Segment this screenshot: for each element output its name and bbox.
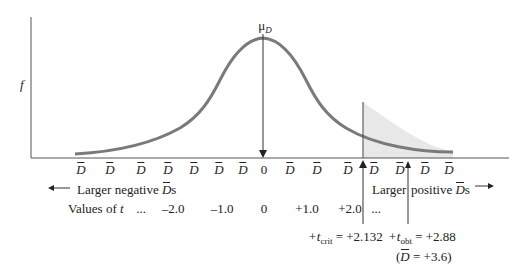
mu-symbol: μ [258,18,265,33]
t-obt-label: +tobt = +2.88 [388,230,456,246]
dbar-tick: D [189,163,198,176]
dbar-tick: D [136,163,145,176]
dbar-tick: D [343,163,352,176]
right-arrow-icon [488,183,494,189]
mean-arrow-icon [259,150,267,158]
t-crit-arrow-icon [359,160,367,168]
dbar-tick: D [214,163,223,176]
t-value-p1: +1.0 [295,202,319,215]
left-arrow-icon [48,185,54,191]
y-axis-label: f [20,78,24,91]
dbar-tick: D [444,163,453,176]
t-crit-label: +tcrit = +2.132 [308,230,383,246]
dbar-tick: D [105,163,114,176]
larger-positive-label-a: Larger [372,183,406,196]
zero-tick: 0 [261,163,268,176]
t-value-m1: –1.0 [211,202,234,215]
dbar-tick: D [163,163,172,176]
t-obt-arrow-icon [405,161,411,168]
dbar-tick: D [238,163,247,176]
values-of-t-label: Values of t [68,202,124,215]
dbar-obt-label: (D = +3.6) [396,250,451,263]
t-value-m2: –2.0 [162,202,185,215]
dbar-tick: D [369,163,378,176]
dbar-tick: D [420,163,429,176]
mean-label: μD [258,19,271,35]
t-ellipsis-right: ... [371,202,381,215]
larger-negative-label: Larger negative Ds [77,183,176,196]
distribution-curve [75,38,363,154]
mu-subscript: D [265,25,272,35]
dbar-tick: D [395,163,404,176]
dbar-tick: D [76,163,85,176]
t-value-0: 0 [261,202,268,215]
t-value-p2: +2.0 [338,202,362,215]
dbar-tick: D [312,163,321,176]
dbar-tick: D [285,163,294,176]
t-ellipsis-left: ... [136,202,146,215]
larger-positive-label-b: positive Ds [411,183,470,196]
